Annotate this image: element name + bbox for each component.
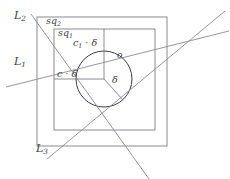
label-measure-c-delta-suffix: · δ [62,68,77,79]
label-square-sq1: sq1 [58,28,73,38]
label-line-L2-sub: 2 [21,14,26,23]
label-line-L3-sub: 3 [43,147,48,156]
line-L3 [47,11,225,159]
label-measure-c-delta: c · δ [57,69,77,79]
label-line-L1-sub: 1 [21,60,26,69]
squares-group [37,17,167,146]
label-measure-c1-delta-sub: 1 [78,42,82,49]
label-line-L2: L2 [14,10,26,21]
label-measure-c1-delta-suffix: · δ [82,37,97,48]
label-center-point-o: o [117,51,122,60]
label-line-L1: L1 [14,56,26,67]
label-square-sq2-text: sq [46,15,57,26]
label-square-sq2-sub: 2 [57,20,61,27]
label-line-L3: L3 [36,143,48,154]
label-radius-delta: δ [112,75,118,85]
figure-canvas [0,0,230,179]
geometry-figure: L2 L1 L3 sq2 sq1 c1 · δ c · δ δ o [0,0,230,179]
label-square-sq2: sq2 [46,16,61,26]
label-measure-c1-delta: c1 · δ [73,38,97,48]
outer-square-sq2 [37,17,167,146]
label-square-sq1-text: sq [58,27,69,38]
